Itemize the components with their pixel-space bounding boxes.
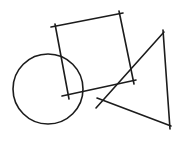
square-edge-left: [55, 24, 69, 99]
square-shape: [51, 11, 136, 99]
circle-shape: [13, 54, 83, 124]
triangle-edge-right: [163, 30, 170, 129]
square-edge-top: [51, 13, 123, 27]
circle-outline: [13, 54, 83, 124]
triangle-edge-bottom: [97, 98, 171, 126]
triangle-edge-left: [96, 32, 164, 108]
square-edge-bottom: [62, 80, 136, 96]
drawing-canvas: [0, 0, 181, 141]
